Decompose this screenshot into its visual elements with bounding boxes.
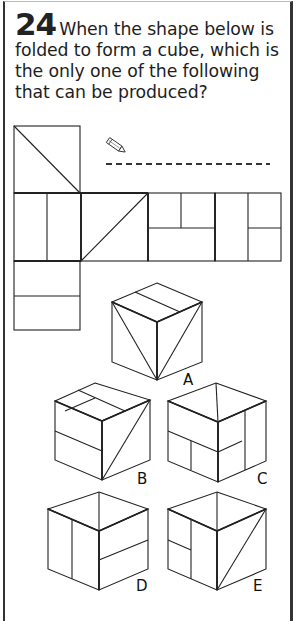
option-c-cube[interactable] (168, 383, 266, 482)
option-a-label[interactable]: A (183, 371, 193, 389)
cube-net (14, 126, 281, 330)
option-e-label[interactable]: E (253, 577, 262, 595)
net-face-row4 (215, 193, 281, 261)
option-d-label[interactable]: D (136, 577, 148, 595)
net-face-row1 (14, 193, 81, 261)
option-b-cube[interactable] (55, 383, 150, 480)
net-face-row2 (81, 193, 148, 261)
net-face-bottom (14, 261, 80, 330)
net-face-row3 (148, 193, 215, 261)
option-e-cube[interactable] (168, 492, 266, 590)
option-b-label[interactable]: B (137, 470, 147, 488)
option-c-label[interactable]: C (257, 470, 267, 488)
pencil-icon (106, 138, 127, 155)
option-d-cube[interactable] (48, 492, 148, 590)
net-face-top (14, 126, 80, 193)
option-a-cube[interactable] (112, 283, 202, 380)
